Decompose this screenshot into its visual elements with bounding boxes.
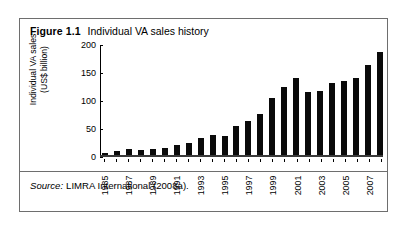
bar-2006: [353, 78, 359, 155]
chart-axes: [100, 45, 383, 157]
x-axis-tick-slot: 1997: [246, 159, 252, 205]
x-axis-tick-slot: [307, 159, 313, 205]
x-axis-tick-slot: [282, 159, 288, 205]
y-axis-ticks: 050100150200: [72, 45, 100, 157]
x-axis-tick-mark: [212, 159, 213, 162]
bar-2002: [305, 92, 311, 155]
y-axis-line: [100, 45, 101, 157]
source-note: Source:LIMRA International (2008a).: [30, 180, 189, 192]
x-axis-tick-mark: [176, 159, 177, 162]
bar-series: [102, 45, 383, 155]
y-axis-tick-mark: [100, 157, 103, 158]
x-axis-tick-mark: [236, 159, 237, 162]
x-axis-line: [100, 155, 383, 157]
x-axis-tick-label: 2005: [341, 176, 350, 196]
x-axis-tick-slot: 1995: [222, 159, 228, 205]
x-axis-tick-mark: [345, 159, 346, 162]
bar-1992: [186, 143, 192, 155]
bar-2003: [317, 91, 323, 155]
y-axis-title-line2: (US$ billion): [38, 16, 49, 124]
bar-2001: [293, 78, 299, 155]
source-label: Source:: [30, 180, 63, 191]
figure-panel: Figure 1.1Individual VA sales history In…: [19, 18, 388, 212]
y-axis-title-line1: Individual VA sales: [28, 34, 38, 106]
y-axis-tick-label: 200: [81, 41, 96, 50]
x-axis-tick-mark: [321, 159, 322, 162]
bar-2008: [377, 52, 383, 155]
x-axis-tick-slot: [258, 159, 264, 205]
x-axis-tick-mark: [333, 159, 334, 162]
x-axis-tick-slot: [379, 159, 385, 205]
y-axis-tick-label: 0: [91, 153, 96, 162]
bar-2007: [365, 65, 371, 155]
bar-1997: [245, 121, 251, 155]
x-axis-tick-mark: [128, 159, 129, 162]
x-axis-tick-mark: [224, 159, 225, 162]
x-axis-tick-label: 1997: [245, 176, 254, 196]
figure-caption: Figure 1.1Individual VA sales history: [30, 25, 209, 38]
x-axis-tick-slot: [234, 159, 240, 205]
chart-plot-area: Individual VA sales (US$ billion) 050100…: [20, 45, 389, 185]
x-axis-tick-slot: [331, 159, 337, 205]
x-axis-tick-slot: 1993: [198, 159, 204, 205]
y-axis-tick-label: 100: [81, 97, 96, 106]
x-axis-tick-mark: [116, 159, 117, 162]
bar-1995: [222, 136, 228, 155]
bar-1990: [162, 148, 168, 155]
bar-1993: [198, 138, 204, 155]
bar-1996: [233, 126, 239, 155]
x-axis-tick-label: 2001: [293, 176, 302, 196]
bar-2005: [341, 81, 347, 155]
bar-1991: [174, 145, 180, 155]
y-axis-tick-label: 50: [86, 125, 96, 134]
x-axis-tick-mark: [188, 159, 189, 162]
x-axis-tick-mark: [200, 159, 201, 162]
x-axis-tick-slot: [210, 159, 216, 205]
x-axis-tick-mark: [369, 159, 370, 162]
x-axis-tick-slot: 1999: [270, 159, 276, 205]
source-value: LIMRA International (2008a).: [66, 180, 189, 191]
x-axis-tick-mark: [152, 159, 153, 162]
x-axis-tick-mark: [104, 159, 105, 162]
x-axis-tick-slot: 2001: [295, 159, 301, 205]
x-axis-tick-mark: [260, 159, 261, 162]
x-axis-tick-mark: [284, 159, 285, 162]
bar-1999: [269, 98, 275, 155]
x-axis-tick-mark: [248, 159, 249, 162]
x-axis-tick-slot: 2005: [343, 159, 349, 205]
bar-2000: [281, 87, 287, 155]
y-axis-tick-label: 150: [81, 69, 96, 78]
y-axis-title: Individual VA sales (US$ billion): [28, 16, 49, 124]
x-axis-tick-mark: [309, 159, 310, 162]
bar-2004: [329, 83, 335, 155]
x-axis-tick-mark: [381, 159, 382, 162]
x-axis-tick-label: 2007: [365, 176, 374, 196]
x-axis-tick-label: 1993: [197, 176, 206, 196]
bar-1994: [210, 135, 216, 155]
x-axis-tick-slot: [355, 159, 361, 205]
x-axis-tick-mark: [140, 159, 141, 162]
x-axis-tick-mark: [164, 159, 165, 162]
x-axis-tick-label: 2003: [317, 176, 326, 196]
x-axis-tick-slot: 2007: [367, 159, 373, 205]
page-title: Individual VA sales history: [88, 25, 209, 37]
x-axis-tick-mark: [297, 159, 298, 162]
x-axis-tick-label: 1995: [221, 176, 230, 196]
x-axis-tick-label: 1999: [269, 176, 278, 196]
source-divider: [20, 171, 387, 172]
x-axis-tick-mark: [272, 159, 273, 162]
bar-1998: [257, 114, 263, 155]
x-axis-tick-slot: 2003: [319, 159, 325, 205]
x-axis-tick-mark: [357, 159, 358, 162]
